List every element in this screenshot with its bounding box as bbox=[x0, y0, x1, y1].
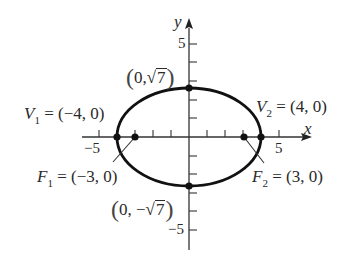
vertex-v1-label: V1 = (−4, 0) bbox=[24, 105, 104, 122]
vertex-v2-dot bbox=[257, 133, 264, 140]
covertex-top-dot bbox=[185, 84, 192, 91]
ellipse-figure: y x 5 −5 −5 5 V1 = (−4, 0) V2 = (4, 0) F… bbox=[0, 0, 352, 258]
covertex-bottom-dot bbox=[185, 182, 192, 189]
covertex-bottom-label: (0, −√7) bbox=[111, 195, 173, 219]
covertex-top-label: (0,√7) bbox=[126, 63, 175, 87]
focus-f2-dot bbox=[240, 133, 247, 140]
y-tick-label-5: 5 bbox=[178, 36, 186, 51]
focus-f2-label: F2 = (3, 0) bbox=[252, 168, 323, 185]
x-axis-label: x bbox=[304, 120, 312, 137]
vertex-v2-label: V2 = (4, 0) bbox=[256, 98, 327, 115]
x-tick-label-neg5: −5 bbox=[84, 141, 100, 156]
plot-canvas bbox=[0, 0, 352, 258]
focus-f1-dot bbox=[131, 133, 138, 140]
y-tick-label-neg5: −5 bbox=[168, 222, 184, 237]
y-axis-arrow-icon bbox=[185, 18, 193, 29]
y-axis bbox=[185, 18, 197, 250]
x-tick-label-5: 5 bbox=[275, 141, 283, 156]
y-axis-label: y bbox=[174, 13, 182, 30]
focus-f1-label: F1 = (−3, 0) bbox=[37, 168, 117, 185]
vertex-v1-dot bbox=[113, 133, 120, 140]
